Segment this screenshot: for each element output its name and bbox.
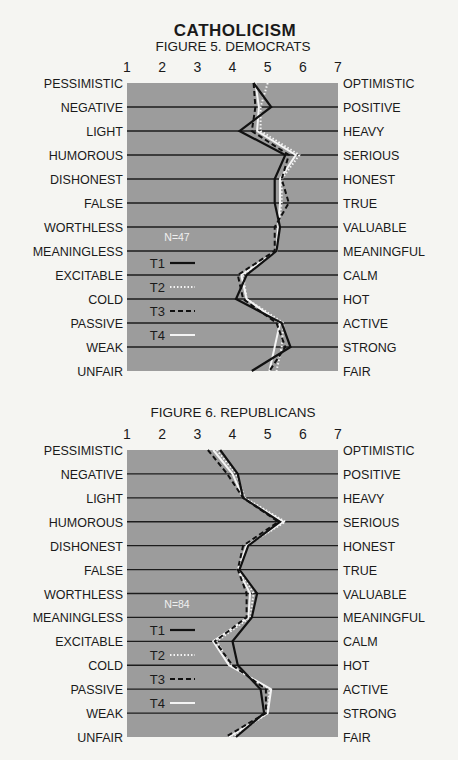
left-anchor-label: PASSIVE: [70, 317, 123, 331]
x-tick-label: 6: [299, 426, 307, 442]
left-anchor-label: COLD: [88, 659, 123, 673]
left-anchor-label: UNFAIR: [77, 365, 123, 379]
left-anchor-label: UNFAIR: [77, 731, 123, 745]
left-anchor-label: PESSIMISTIC: [44, 77, 123, 91]
legend-label: T3: [150, 304, 165, 319]
right-anchor-label: STRONG: [343, 341, 396, 355]
left-anchor-label: WEAK: [86, 707, 123, 721]
x-tick-label: 5: [264, 426, 272, 442]
sample-size-annotation: N=47: [164, 231, 190, 243]
left-anchor-label: LIGHT: [86, 125, 123, 139]
left-anchor-label: NEGATIVE: [61, 101, 123, 115]
right-anchor-label: HONEST: [343, 173, 395, 187]
legend-label: T2: [150, 648, 165, 663]
x-tick-label: 5: [264, 59, 272, 75]
legend-label: T2: [150, 280, 165, 295]
x-tick-label: 2: [158, 59, 166, 75]
left-anchor-label: MEANINGLESS: [33, 245, 123, 259]
figure-republicans: FIGURE 6. REPUBLICANS1234567PESSIMISTICN…: [33, 405, 425, 745]
left-anchor-label: FALSE: [84, 197, 123, 211]
right-anchor-label: SERIOUS: [343, 516, 399, 530]
x-tick-label: 1: [123, 59, 131, 75]
left-anchor-label: MEANINGLESS: [33, 611, 123, 625]
right-anchor-label: POSITIVE: [343, 101, 401, 115]
left-anchor-label: LIGHT: [86, 492, 123, 506]
right-anchor-label: STRONG: [343, 707, 396, 721]
x-tick-label: 7: [334, 59, 342, 75]
x-tick-label: 7: [334, 426, 342, 442]
right-anchor-label: TRUE: [343, 564, 377, 578]
legend-label: T1: [150, 623, 165, 638]
left-anchor-label: NEGATIVE: [61, 468, 123, 482]
right-anchor-label: MEANINGFUL: [343, 245, 425, 259]
x-tick-label: 4: [229, 59, 237, 75]
right-anchor-label: CALM: [343, 635, 378, 649]
right-anchor-label: HEAVY: [343, 492, 385, 506]
left-anchor-label: COLD: [88, 293, 123, 307]
figure-title: FIGURE 6. REPUBLICANS: [150, 405, 315, 420]
right-anchor-label: MEANINGFUL: [343, 611, 425, 625]
right-anchor-label: HEAVY: [343, 125, 385, 139]
left-anchor-label: EXCITABLE: [55, 269, 123, 283]
left-anchor-label: HUMOROUS: [49, 149, 123, 163]
right-anchor-label: OPTIMISTIC: [343, 444, 415, 458]
left-anchor-label: EXCITABLE: [55, 635, 123, 649]
right-anchor-label: FAIR: [343, 365, 371, 379]
right-anchor-label: ACTIVE: [343, 683, 388, 697]
right-anchor-label: POSITIVE: [343, 468, 401, 482]
left-anchor-label: PASSIVE: [70, 683, 123, 697]
x-tick-label: 3: [193, 426, 201, 442]
right-anchor-label: HOT: [343, 293, 370, 307]
right-anchor-label: CALM: [343, 269, 378, 283]
sample-size-annotation: N=84: [164, 598, 190, 610]
right-anchor-label: TRUE: [343, 197, 377, 211]
legend-label: T1: [150, 256, 165, 271]
x-tick-label: 3: [193, 59, 201, 75]
right-anchor-label: HONEST: [343, 540, 395, 554]
right-anchor-label: VALUABLE: [343, 588, 407, 602]
left-anchor-label: DISHONEST: [50, 173, 123, 187]
right-anchor-label: VALUABLE: [343, 221, 407, 235]
legend-label: T3: [150, 672, 165, 687]
figure-title: FIGURE 5. DEMOCRATS: [155, 39, 310, 54]
right-anchor-label: SERIOUS: [343, 149, 399, 163]
x-tick-label: 6: [299, 59, 307, 75]
left-anchor-label: DISHONEST: [50, 540, 123, 554]
right-anchor-label: ACTIVE: [343, 317, 388, 331]
left-anchor-label: PESSIMISTIC: [44, 444, 123, 458]
left-anchor-label: WORTHLESS: [44, 221, 123, 235]
right-anchor-label: FAIR: [343, 731, 371, 745]
legend-label: T4: [150, 328, 165, 343]
chart-canvas: FIGURE 5. DEMOCRATS1234567PESSIMISTICNEG…: [0, 0, 458, 760]
right-anchor-label: HOT: [343, 659, 370, 673]
x-tick-label: 2: [158, 426, 166, 442]
legend-label: T4: [150, 696, 165, 711]
x-tick-label: 4: [229, 426, 237, 442]
figure-democrats: FIGURE 5. DEMOCRATS1234567PESSIMISTICNEG…: [33, 39, 425, 379]
x-tick-label: 1: [123, 426, 131, 442]
left-anchor-label: HUMOROUS: [49, 516, 123, 530]
left-anchor-label: FALSE: [84, 564, 123, 578]
right-anchor-label: OPTIMISTIC: [343, 77, 415, 91]
left-anchor-label: WEAK: [86, 341, 123, 355]
left-anchor-label: WORTHLESS: [44, 588, 123, 602]
